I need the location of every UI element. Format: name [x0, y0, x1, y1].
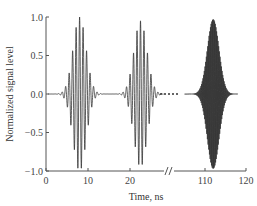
x-tick-label: 120	[239, 175, 254, 186]
x-tick-label: 10	[83, 175, 93, 186]
x-axis-label: Time, ns	[129, 191, 164, 202]
y-ticks: 1.00.50.0−0.5−1.0	[25, 12, 49, 177]
y-tick-label: 1.0	[31, 12, 44, 23]
x-tick-label: 110	[198, 175, 213, 186]
y-tick-label: −0.5	[25, 127, 43, 138]
y-axis-label: Normalized signal level	[4, 46, 15, 142]
y-tick-label: −1.0	[25, 166, 43, 177]
axis-break-icon	[164, 166, 174, 176]
chart: 1.00.50.0−0.5−1.0 01020110120 Time, ns N…	[0, 0, 257, 206]
y-tick-label: 0.0	[31, 89, 44, 100]
x-tick-label: 0	[44, 175, 49, 186]
signal-waveform	[48, 17, 164, 168]
plot-area	[48, 17, 238, 168]
x-tick-label: 20	[125, 175, 135, 186]
y-tick-label: 0.5	[31, 50, 44, 61]
signal-waveform	[185, 19, 238, 168]
